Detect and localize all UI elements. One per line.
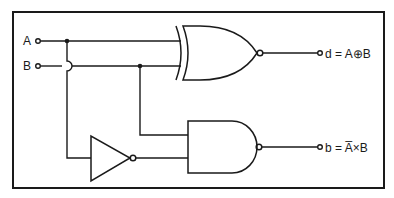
output-d-label: d = A⊕B xyxy=(325,47,371,61)
input-b-label: B xyxy=(23,59,31,73)
output-d-terminal xyxy=(318,51,323,56)
input-b-terminal xyxy=(36,64,41,69)
input-a-label: A xyxy=(23,34,31,48)
not-gate xyxy=(91,136,136,181)
wire-b-to-nand xyxy=(140,66,188,135)
diagram-frame xyxy=(13,12,384,188)
input-a-terminal xyxy=(36,39,41,44)
logic-circuit-diagram: A B d = A⊕B b = A̅×B xyxy=(0,0,394,198)
output-b-terminal xyxy=(318,145,323,150)
output-b-label: b = A̅×B xyxy=(325,141,368,155)
nand-gate xyxy=(188,121,262,173)
wire-a-to-not xyxy=(67,41,91,158)
xnor-gate xyxy=(176,26,263,80)
xnor-bubble xyxy=(257,50,263,56)
